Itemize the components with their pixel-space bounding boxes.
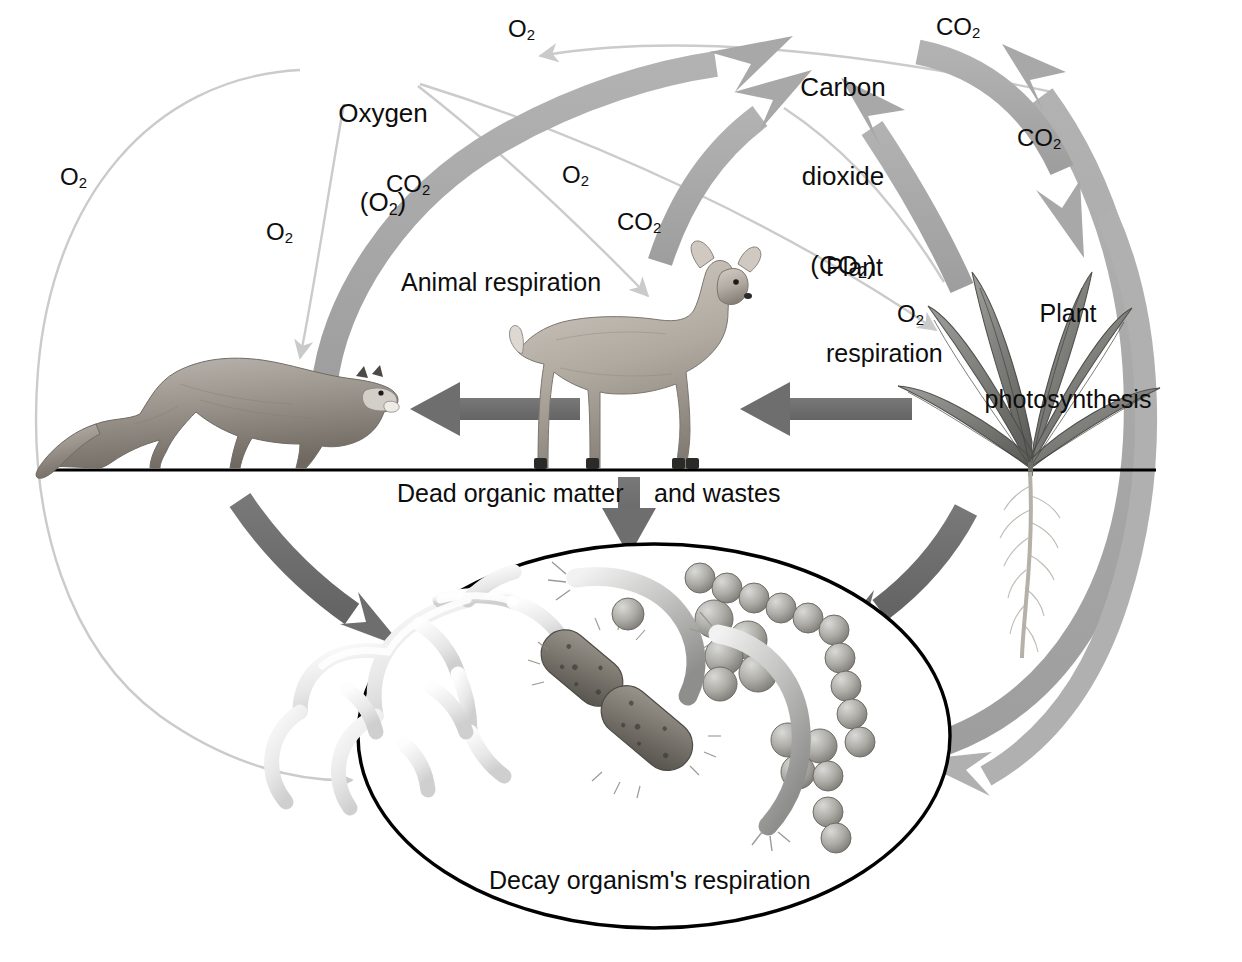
co2-label-line1: Carbon: [768, 73, 918, 103]
molecule-label-o2-far-left: O2: [60, 163, 87, 192]
molecule-formula-base: CO: [386, 170, 422, 197]
molecule-formula-subscript: 2: [972, 25, 980, 41]
molecule-formula-subscript: 2: [79, 175, 87, 191]
molecule-formula-base: O: [562, 161, 581, 188]
molecule-formula-subscript: 2: [1053, 136, 1061, 152]
plant-photosynthesis-line2: photosynthesis: [978, 385, 1158, 414]
animal-respiration-label: Animal respiration: [401, 268, 601, 297]
molecule-formula-subscript: 2: [916, 312, 924, 328]
co2-label-line2: dioxide: [768, 162, 918, 192]
molecule-formula-base: CO: [617, 208, 653, 235]
cycle-diagram-canvas: Oxygen (O2) Carbon dioxide (CO2) Animal …: [0, 0, 1242, 962]
coccus-pair: [813, 797, 851, 853]
oxygen-label-line1: Oxygen: [313, 99, 453, 129]
molecule-formula-base: CO: [1017, 124, 1053, 151]
molecule-label-o2-mid-center: O2: [562, 161, 589, 190]
cougar-illustration: [36, 358, 399, 478]
plant-photosynthesis-line1: Plant: [978, 299, 1158, 328]
molecule-formula-base: O: [508, 15, 527, 42]
plant-respiration-line1: Plant: [826, 253, 943, 282]
decay-respiration-label: Decay organism's respiration: [489, 866, 811, 895]
oxygen-label-line2: (O2): [313, 188, 453, 218]
molecule-label-co2-left-mid: CO2: [386, 170, 430, 199]
molecule-label-co2-right-arc: CO2: [1017, 124, 1061, 153]
molecule-label-o2-under-oxygen: O2: [266, 218, 293, 247]
molecule-label-o2-top-center: O2: [508, 15, 535, 44]
oxygen-pool-label: Oxygen (O2): [313, 40, 453, 277]
molecule-formula-subscript: 2: [527, 27, 535, 43]
molecule-formula-base: CO: [936, 13, 972, 40]
molecule-formula-subscript: 2: [422, 182, 430, 198]
plant-photosynthesis-label: Plant photosynthesis: [978, 242, 1158, 470]
decay-organisms-illustration: [272, 562, 875, 853]
plant-respiration-line2: respiration: [826, 339, 943, 368]
molecule-label-co2-top-right: CO2: [936, 13, 980, 42]
molecule-formula-base: O: [266, 218, 285, 245]
fungal-hyphae: [272, 572, 566, 808]
molecule-label-co2-center: CO2: [617, 208, 661, 237]
molecule-formula-subscript: 2: [653, 220, 661, 236]
dead-organic-matter-label: Dead organic matter: [397, 479, 624, 508]
molecule-label-o2-right-plant: O2: [897, 300, 924, 329]
and-wastes-label: and wastes: [654, 479, 780, 508]
molecule-formula-subscript: 2: [285, 230, 293, 246]
molecule-formula-base: O: [60, 163, 79, 190]
plant-respiration-label: Plant respiration: [826, 196, 943, 424]
coccus-single: [612, 598, 644, 630]
molecule-formula-base: O: [897, 300, 916, 327]
molecule-formula-subscript: 2: [581, 173, 589, 189]
